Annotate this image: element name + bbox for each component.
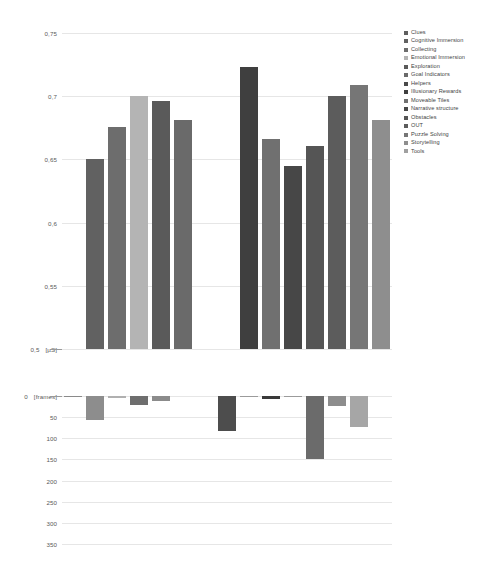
y-axis-tick-label: 0,6 [48,219,57,226]
gridline [62,544,392,545]
legend-item-label: Goal Indicators [411,72,450,78]
y-axis-tick-label: 50 [50,414,57,421]
y-axis-tick-label: 350 [46,541,57,548]
bar[interactable] [240,396,257,397]
y-axis-tick-label: 150 [46,456,57,463]
y-axis-tick-label: 0,65 [45,156,57,163]
bar[interactable] [306,396,323,459]
legend-item[interactable]: Helpers [404,81,492,87]
bar[interactable] [86,396,103,420]
chart-bottom-frames: 0[frames]50100150200250300350 [62,396,392,544]
gridline [62,33,392,34]
legend-item[interactable]: Clues [404,30,492,36]
plot-area-bottom: 0[frames]50100150200250300350 [62,396,392,544]
legend-item-label: Storytelling [411,140,440,146]
bar[interactable] [328,396,345,406]
legend-swatch-icon [404,82,408,86]
legend-swatch-icon [404,73,408,77]
legend-item-label: Clues [411,30,426,36]
plot-area-top: 0,750,70,650,60,550,5[µS] [62,33,392,349]
bar[interactable] [372,120,389,349]
legend-swatch-icon [404,90,408,94]
legend-item[interactable]: Goal Indicators [404,72,492,78]
bar[interactable] [328,96,345,349]
gridline [62,523,392,524]
bar[interactable] [262,139,279,349]
legend-swatch-icon [404,107,408,111]
legend-item-label: Cognitive Immersion [411,38,464,44]
legend-item-label: Narrative structure [411,106,459,112]
bar[interactable] [86,159,103,349]
legend-swatch-icon [404,31,408,35]
y-axis-tick-label: 100 [46,435,57,442]
y-axis-tick-label: 0,75 [45,30,57,37]
y-axis-tick-label: 250 [46,498,57,505]
bar[interactable] [108,396,125,398]
legend-swatch-icon [404,133,408,137]
legend-swatch-icon [404,149,408,153]
bar[interactable] [152,101,169,349]
legend-item[interactable]: Puzzle Solving [404,132,492,138]
legend: CluesCognitive ImmersionCollectingEmotio… [404,30,492,157]
legend-item-label: Moveable Tiles [411,98,449,104]
bar[interactable] [218,396,235,431]
legend-item-label: Collecting [411,47,436,53]
bar[interactable] [306,146,323,350]
legend-item-label: Tools [411,149,424,155]
bar[interactable] [64,396,81,397]
legend-item-label: Puzzle Solving [411,132,449,138]
y-axis-tick-label: 0,7 [48,93,57,100]
legend-item[interactable]: Exploration [404,64,492,70]
legend-item[interactable]: Illusionary Rewards [404,89,492,95]
legend-item-label: OUT [411,123,423,129]
legend-swatch-icon [404,141,408,145]
figure-caption [0,562,493,572]
legend-item[interactable]: Tools [404,149,492,155]
legend-swatch-icon [404,65,408,69]
bar[interactable] [350,85,367,349]
legend-swatch-icon [404,124,408,128]
legend-swatch-icon [404,39,408,43]
legend-item[interactable]: OUT [404,123,492,129]
bar[interactable] [174,120,191,349]
bar[interactable] [284,166,301,349]
legend-swatch-icon [404,116,408,120]
legend-swatch-icon [404,56,408,60]
gridline [62,438,392,439]
legend-item[interactable]: Obstacles [404,115,492,121]
legend-item-label: Obstacles [411,115,437,121]
gridline [62,502,392,503]
legend-swatch-icon [404,48,408,52]
y-axis-tick-label: 300 [46,519,57,526]
bar[interactable] [240,67,257,349]
axis-origin-stub [50,349,62,350]
legend-swatch-icon [404,99,408,103]
y-axis-tick-label: 200 [46,477,57,484]
bar[interactable] [130,396,147,405]
bar[interactable] [350,396,367,427]
figure: 0,750,70,650,60,550,5[µS] 0[frames]50100… [0,0,493,572]
legend-item[interactable]: Cognitive Immersion [404,38,492,44]
bar[interactable] [262,396,279,399]
legend-item-label: Emotional Immersion [411,55,465,61]
bar[interactable] [152,396,169,401]
legend-item-label: Helpers [411,81,431,87]
y-axis-tick-label: 0,55 [45,282,57,289]
bar[interactable] [284,396,301,397]
legend-item[interactable]: Collecting [404,47,492,53]
legend-item[interactable]: Emotional Immersion [404,55,492,61]
legend-item-label: Illusionary Rewards [411,89,461,95]
bar[interactable] [108,127,125,349]
gridline [62,459,392,460]
gridline [62,349,392,350]
axis-origin-stub [50,396,62,397]
legend-item[interactable]: Moveable Tiles [404,98,492,104]
chart-top-eda: 0,750,70,650,60,550,5[µS] [62,33,392,349]
legend-item[interactable]: Storytelling [404,140,492,146]
gridline [62,481,392,482]
legend-item-label: Exploration [411,64,440,70]
bar[interactable] [130,96,147,349]
legend-item[interactable]: Narrative structure [404,106,492,112]
